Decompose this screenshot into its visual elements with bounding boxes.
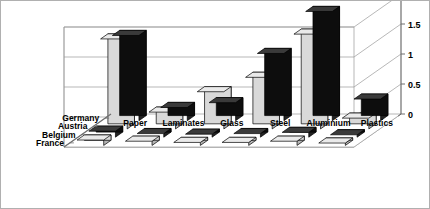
value-axis-label-0.5: 0.5 xyxy=(408,80,421,90)
category-label-paper: Paper xyxy=(123,118,147,128)
category-label-laminates: Laminates xyxy=(162,118,204,128)
category-label-steel: Steel xyxy=(270,118,290,128)
value-axis-label-0: 0 xyxy=(408,110,413,120)
depth-gridline-2 xyxy=(354,1,401,27)
series-label-france: France xyxy=(36,138,64,148)
category-label-aluminium: Aluminium xyxy=(307,118,351,128)
bar-chart-3d: 00.511.52PaperLaminatesGlassSteelAlumini… xyxy=(1,1,430,209)
value-axis-label-1.5: 1.5 xyxy=(408,20,421,30)
depth-gridline-1 xyxy=(354,54,401,87)
category-label-plastics: Plastics xyxy=(361,118,393,128)
category-label-glass: Glass xyxy=(220,118,243,128)
chart-frame: 00.511.52PaperLaminatesGlassSteelAlumini… xyxy=(0,0,430,209)
value-axis-label-1: 1 xyxy=(408,50,413,60)
depth-gridline-1.5 xyxy=(354,24,401,57)
